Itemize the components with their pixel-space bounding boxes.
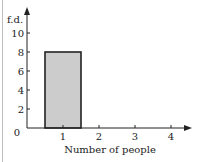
x-axis-arrow-icon: [184, 125, 192, 131]
histogram-chart: f.d. 10 8 6 4 2 0 1 2 3 4 Number of peop…: [0, 0, 199, 162]
y-tick-4: 4: [18, 85, 24, 96]
x-tick-2: 2: [96, 131, 102, 142]
y-tick-2: 2: [18, 104, 24, 115]
y-tick-6: 6: [18, 66, 24, 77]
x-tick-3: 3: [132, 131, 138, 142]
origin-label: 0: [14, 127, 20, 138]
histogram-bar: [45, 52, 81, 128]
y-axis-label: f.d.: [7, 14, 23, 25]
y-tick-10: 10: [11, 28, 24, 39]
x-axis-label: Number of people: [64, 144, 156, 155]
x-tick-4: 4: [168, 131, 174, 142]
y-axis-arrow-icon: [24, 7, 30, 15]
x-tick-1: 1: [60, 131, 66, 142]
y-tick-8: 8: [18, 47, 24, 58]
